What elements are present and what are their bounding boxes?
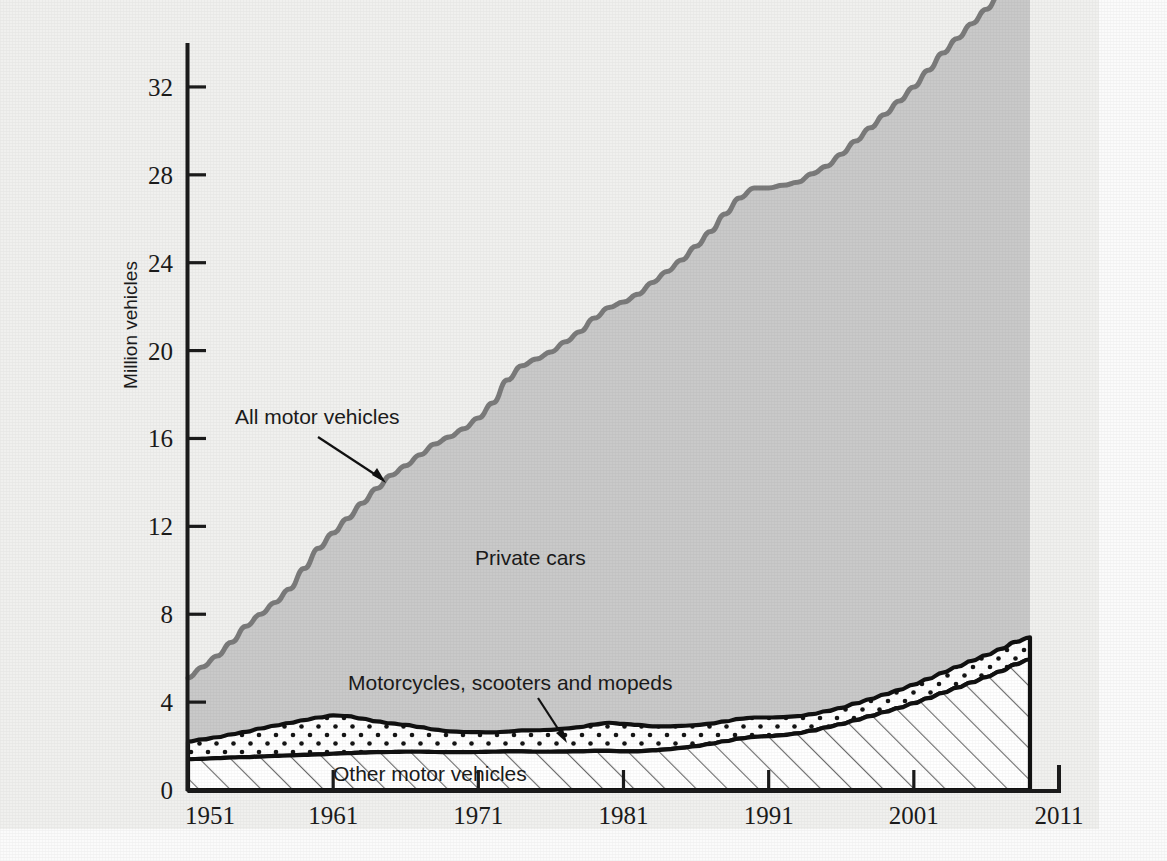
figure-page: 048121620242832 195119611971198119912001… — [0, 0, 1167, 861]
paper-margin-right — [1099, 0, 1167, 861]
paper-margin-bottom — [0, 829, 1167, 861]
label-private-cars: Private cars — [475, 546, 586, 569]
label-motorcycles: Motorcycles, scooters and mopeds — [348, 671, 672, 694]
label-all-motor-vehicles: All motor vehicles — [235, 405, 400, 428]
y-tick-label: 0 — [161, 777, 174, 804]
y-tick-labels: 048121620242832 — [148, 74, 174, 804]
x-tick-label: 1951 — [185, 802, 235, 829]
x-tick-label: 1991 — [744, 802, 794, 829]
y-tick-label: 28 — [148, 162, 173, 189]
area-private-cars — [188, 0, 1030, 742]
y-tick-label: 4 — [161, 689, 174, 716]
x-tick-label: 1981 — [599, 802, 649, 829]
y-tick-label: 16 — [148, 425, 173, 452]
area-chart: 048121620242832 195119611971198119912001… — [0, 0, 1167, 861]
x-tick-label: 2011 — [1034, 802, 1083, 829]
y-tick-label: 20 — [148, 338, 173, 365]
x-tick-labels: 1951196119711981199120012011 — [185, 802, 1084, 829]
x-tick-label: 1961 — [308, 802, 358, 829]
x-tick-label: 1971 — [453, 802, 503, 829]
label-other-motor-vehicles: Other motor vehicles — [333, 762, 527, 785]
y-tick-label: 24 — [148, 250, 174, 277]
y-tick-label: 8 — [161, 601, 174, 628]
x-tick-label: 2001 — [889, 802, 939, 829]
y-tick-label: 12 — [148, 513, 173, 540]
annotation-all-motor-vehicles: All motor vehicles — [235, 405, 400, 483]
arrowhead-icon — [372, 468, 386, 483]
y-axis-title: Million vehicles — [120, 261, 141, 389]
y-tick-label: 32 — [148, 74, 173, 101]
